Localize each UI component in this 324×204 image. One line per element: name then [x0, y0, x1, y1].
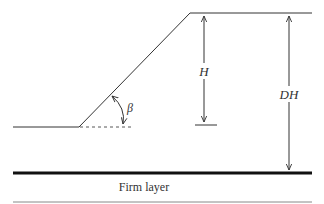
angle-label: β [126, 101, 133, 115]
angle-arc [112, 96, 124, 124]
height-label: H [198, 64, 209, 79]
firm-layer-label: Firm layer [119, 180, 169, 194]
ground-surface [13, 13, 312, 127]
depth-label: DH [279, 87, 299, 102]
slope-diagram: β H DH Firm layer [0, 0, 324, 204]
